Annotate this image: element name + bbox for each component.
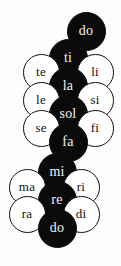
note-label: ra	[22, 207, 33, 220]
note-label: le	[36, 93, 46, 106]
solfege-diagram: dotitelilalesisolsefifamimarireradido	[0, 0, 121, 266]
note-label: si	[90, 93, 99, 106]
note-label: se	[35, 121, 46, 134]
note-label: fi	[91, 121, 99, 134]
note-label: ti	[64, 51, 72, 65]
note-label: li	[91, 65, 99, 78]
note-circle-do-17: do	[38, 209, 77, 248]
note-label: mi	[49, 165, 64, 179]
note-label: ri	[77, 180, 85, 193]
note-label: re	[51, 193, 62, 207]
note-label: do	[79, 24, 93, 38]
note-label: ma	[19, 180, 35, 193]
note-label: di	[76, 207, 87, 220]
note-label: do	[50, 221, 64, 235]
note-label: te	[36, 65, 46, 78]
note-label: sol	[60, 107, 77, 121]
note-label: la	[63, 79, 74, 93]
note-label: fa	[62, 135, 73, 149]
